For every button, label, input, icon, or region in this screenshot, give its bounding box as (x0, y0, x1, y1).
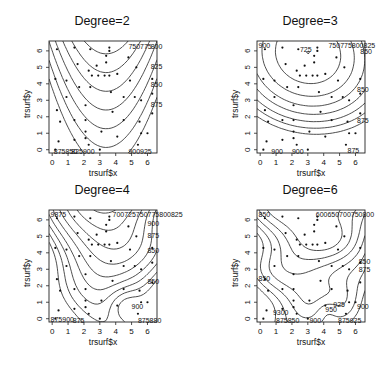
data-point (342, 96, 344, 98)
contour-label: 875925 (338, 317, 361, 324)
y-axis-label: trsurf$y (230, 90, 240, 118)
data-point (265, 309, 267, 311)
data-point (97, 74, 99, 76)
data-point (96, 234, 98, 236)
y-tick-label: 6 (35, 217, 44, 222)
data-point (308, 130, 310, 132)
data-point (304, 65, 306, 67)
data-point (284, 232, 286, 234)
data-point (123, 96, 125, 98)
data-point (78, 255, 80, 257)
data-point (138, 290, 140, 292)
data-point (359, 78, 361, 80)
data-point (262, 247, 264, 249)
data-point (342, 265, 344, 267)
data-point (337, 248, 339, 250)
data-point (129, 79, 131, 81)
data-point (304, 234, 306, 236)
data-point (297, 217, 299, 219)
data-point (100, 130, 102, 132)
data-point (135, 235, 137, 237)
data-point (127, 225, 129, 227)
data-point (313, 55, 315, 57)
contour-label: 900 (147, 220, 159, 227)
x-tick-label: 2 (290, 327, 295, 336)
x-tick-label: 3 (98, 158, 103, 167)
data-point (138, 121, 140, 123)
data-point (84, 130, 86, 132)
contour-label: 875 (359, 266, 371, 273)
data-point (324, 73, 326, 75)
x-tick-label: 0 (50, 158, 55, 167)
data-point (316, 243, 318, 245)
contour-lines (49, 41, 157, 153)
data-point (88, 70, 90, 72)
data-point (88, 313, 90, 315)
data-point (108, 46, 110, 48)
data-point (54, 247, 56, 249)
x-tick-label: 6 (353, 327, 358, 336)
data-point (146, 132, 148, 134)
y-tick-label: 2 (243, 283, 252, 288)
data-point (84, 119, 86, 121)
data-point (354, 132, 356, 134)
data-point (284, 63, 286, 65)
contour-line (84, 41, 128, 54)
data-point (89, 86, 91, 88)
data-point (100, 299, 102, 301)
data-point (305, 243, 307, 245)
y-axis-label: trsurf$y (22, 259, 32, 287)
data-point (292, 306, 294, 308)
data-point (262, 318, 264, 320)
contour-label: 850 (147, 247, 159, 254)
x-tick-label: 0 (258, 158, 263, 167)
contour-line (49, 242, 157, 322)
x-axis-label: trsurf$x (48, 337, 158, 347)
x-tick-label: 5 (129, 327, 134, 336)
x-tick-label: 1 (66, 327, 71, 336)
data-point (346, 290, 348, 292)
data-point (299, 74, 301, 76)
panel-degree-4: Degree=4 9875700725750775800825900875850… (0, 169, 194, 353)
data-point (348, 132, 350, 134)
data-point (134, 96, 136, 98)
data-point (65, 96, 67, 98)
contour-label: 875 (73, 317, 85, 324)
data-points (262, 215, 361, 319)
data-point (54, 78, 56, 80)
data-point (73, 215, 75, 217)
y-tick-label: 4 (35, 81, 44, 86)
contour-line (53, 210, 156, 277)
x-tick-label: 3 (98, 327, 103, 336)
data-point (96, 65, 98, 67)
data-point (345, 144, 347, 146)
data-point (73, 308, 75, 310)
data-point (56, 48, 58, 50)
y-tick-label: 0 (243, 316, 252, 321)
y-tick-label: 1 (35, 299, 44, 304)
data-point (108, 74, 110, 76)
contour-label: 9875 (51, 211, 67, 218)
data-point (84, 299, 86, 301)
y-tick-label: 5 (35, 234, 44, 239)
y-tick-label: 3 (35, 98, 44, 103)
panel-degree-6: Degree=6 8506006507007508008508758509259… (208, 169, 387, 353)
contour-line (49, 225, 157, 304)
data-point (91, 74, 93, 76)
data-point (146, 301, 148, 303)
x-tick-label: 3 (306, 158, 311, 167)
contour-lines (257, 41, 365, 134)
data-point (318, 260, 320, 262)
data-point (57, 309, 59, 311)
data-point (337, 79, 339, 81)
data-point (84, 306, 86, 308)
y-tick-label: 5 (35, 65, 44, 70)
data-point (56, 278, 58, 280)
contour-labels: 750775800825850875875850825900900925 (54, 43, 163, 155)
data-point (318, 91, 320, 93)
data-point (305, 74, 307, 76)
data-point (316, 46, 318, 48)
y-axis-label: trsurf$y (22, 90, 32, 118)
y-tick-label: 0 (35, 147, 44, 152)
contour-labels: 8506006507007508008508758509259509009300… (259, 211, 375, 324)
